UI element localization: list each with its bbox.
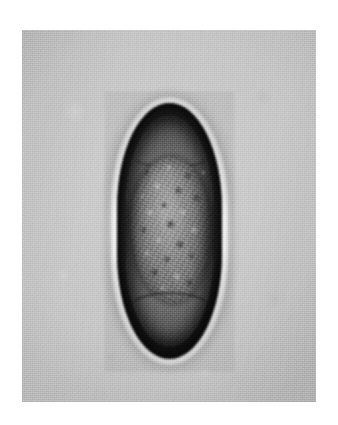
micrograph-panel — [22, 30, 316, 402]
page-root — [0, 0, 338, 425]
plate-film-grain — [22, 30, 316, 402]
